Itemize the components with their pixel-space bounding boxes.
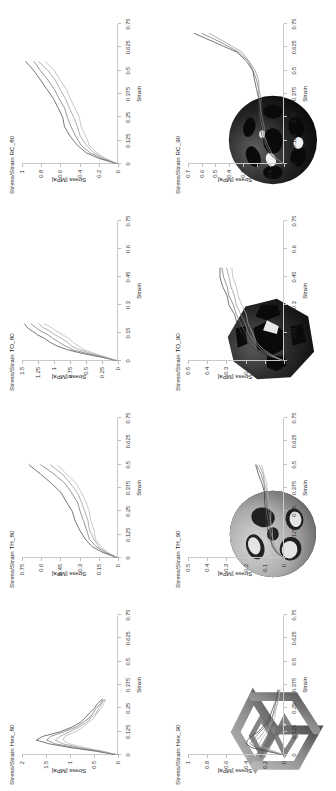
x-tick [284,684,287,685]
x-tick [284,23,287,24]
y-tick-label: 0 [115,367,121,370]
x-tick-label: 0.625 [125,40,131,54]
x-tick-label: 0.375 [125,87,131,101]
plot-th-80: Stress/Strain TH_80 00.1250.250.3750.50.… [6,402,154,588]
y-tick [70,755,71,758]
y-tick [118,558,119,561]
y-tick [226,755,227,758]
x-tick [118,70,121,71]
x-tick [284,93,287,94]
y-tick [22,558,23,561]
y-tick [54,361,55,364]
x-tick [118,731,121,732]
y-tick-label: 0 [281,170,287,173]
y-tick-label: 0 [281,367,287,370]
x-tick-label: 0.25 [291,506,297,517]
x-tick [118,140,121,141]
y-tick-label: 0 [281,564,287,567]
x-tick [284,707,287,708]
y-tick [22,164,23,167]
y-tick [284,164,285,167]
y-tick [80,558,81,561]
x-tick-label: 0.75 [125,413,131,424]
x-tick [284,220,287,221]
x-tick-label: 0 [125,556,131,559]
plot-axes: 00.1250.250.3750.50.6250.7500.10.20.30.4… [188,24,284,164]
x-tick [118,440,121,441]
y-tick [243,164,244,167]
y-tick-label: 0 [115,761,121,764]
x-tick [284,637,287,638]
x-tick [118,534,121,535]
plot-axes: 00.150.30.450.60.7500.10.20.30.40.5 Stra… [188,221,284,361]
y-tick [41,558,42,561]
x-tick-label: 0.625 [291,434,297,448]
y-tick [265,361,266,364]
y-tick [284,558,285,561]
y-axis-label: Stress [MPa] [39,768,99,774]
x-tick-label: 0.6 [125,245,131,253]
x-tick [118,23,121,24]
plot-th-90: Stress/Strain TH_90 00.1250.250.3750.50.… [172,402,320,588]
y-tick-label: 0.25 [99,367,105,378]
x-tick [118,684,121,685]
panel-hex: Stress/Strain Hex_80 00.1250.250.3750.50… [0,594,336,791]
x-tick-label: 0.25 [125,112,131,123]
plot-title: Stress/Strain TH_90 [174,531,181,589]
plot-axes: 00.1250.250.3750.50.6250.7500.150.30.450… [22,418,118,558]
x-tick [284,464,287,465]
x-tick-label: 0.125 [125,725,131,739]
y-axis-label: Stress [MPa] [205,571,265,577]
y-tick-label: 0.5 [185,564,191,572]
y-tick [80,164,81,167]
y-axis-label: Stress [MPa] [39,374,99,380]
x-tick-label: 0.75 [291,413,297,424]
x-tick-label: 0 [291,162,297,165]
y-tick [246,361,247,364]
x-axis-label: Strain [302,86,308,102]
x-tick-label: 0.375 [291,481,297,495]
x-tick-label: 0.25 [125,506,131,517]
x-tick-label: 0 [291,556,297,559]
x-axis-label: Strain [302,283,308,299]
y-tick-label: 0.75 [19,564,25,575]
y-tick-label: 0 [115,170,121,173]
x-tick-label: 0.5 [291,461,297,469]
x-tick [118,332,121,333]
y-tick-label: 1 [185,761,191,764]
x-tick-label: 0 [125,162,131,165]
plot-title: Stress/Strain TH_80 [8,531,15,589]
y-tick-label: 0.5 [185,367,191,375]
y-tick [270,164,271,167]
x-tick-label: 0.625 [125,434,131,448]
x-tick-label: 0.375 [291,87,297,101]
plot-title: Stress/Strain TO_90 [174,333,181,391]
x-tick-label: 0.125 [291,134,297,148]
y-tick-label: 1 [19,170,25,173]
x-tick-label: 0.75 [291,19,297,30]
x-tick-label: 0 [291,359,297,362]
y-tick [207,361,208,364]
y-tick [99,558,100,561]
y-tick-label: 0.1 [267,170,273,178]
y-tick-label: 1.5 [19,367,25,375]
x-tick [284,731,287,732]
y-tick [118,361,119,364]
x-tick-label: 0.375 [125,481,131,495]
plot-to-90: Stress/Strain TO_90 00.150.30.450.60.750… [172,205,320,391]
plot-axes: 00.1250.250.3750.50.6250.7500.511.52 Str… [22,615,118,755]
x-axis-label: Strain [302,677,308,693]
x-axis-label: Strain [136,677,142,693]
panel-rc: Stress/Strain RC_80 00.1250.250.3750.50.… [0,3,336,200]
x-tick [118,487,121,488]
x-tick [118,637,121,638]
y-tick [226,558,227,561]
x-tick [284,614,287,615]
y-axis-label: Stress [MPa] [205,768,265,774]
x-tick [284,46,287,47]
y-tick [226,361,227,364]
plot-hex-80: Stress/Strain Hex_80 00.1250.250.3750.50… [6,599,154,785]
x-tick [284,440,287,441]
x-tick [118,304,121,305]
x-tick-label: 0.15 [291,328,297,339]
